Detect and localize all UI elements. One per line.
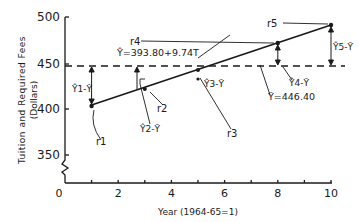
residual-label-r5: r5	[267, 18, 277, 29]
x-tick-10: 10	[324, 187, 338, 200]
x-tick-8: 8	[274, 187, 281, 200]
residual-label-r2: r2	[157, 103, 167, 114]
x-tick-6: 6	[221, 187, 228, 200]
regression-chart: 500 450 400 350 0 2 4 6 8 10 Year (1964-…	[0, 0, 358, 222]
residual-label-r1: r1	[96, 136, 106, 147]
y-tick-500: 500	[37, 10, 60, 24]
y-tick-350: 350	[37, 148, 60, 162]
y-tick-450: 450	[37, 57, 60, 71]
residual-label-r3: r3	[227, 128, 237, 139]
deviation-label-2: Ŷ2-Ȳ	[139, 123, 160, 134]
regression-equation-label: Ŷ=393.80+9.74T	[116, 47, 199, 58]
x-axis	[65, 180, 332, 183]
y-tick-400: 400	[37, 102, 60, 116]
x-tick-2: 2	[115, 187, 122, 200]
deviation-label-3: Ŷ3-Ȳ	[203, 78, 224, 89]
x-axis-label: Year (1964-65=1)	[157, 207, 238, 217]
y-axis-label-line1: Tuition and Required Fees	[17, 36, 27, 165]
deviation-label-5: Ŷ5-Ȳ	[332, 41, 353, 52]
residual-label-r4: r4	[130, 36, 140, 47]
x-tick-4: 4	[168, 187, 175, 200]
mean-label: Ȳ=446.40	[267, 91, 315, 102]
deviation-label-4: Ŷ4-Ȳ	[288, 77, 309, 88]
x-tick-0: 0	[56, 187, 63, 200]
deviation-label-1: Ŷ1-Ȳ	[71, 83, 92, 94]
y-axis-label-line2: (Dollars)	[29, 81, 39, 119]
y-axis	[62, 17, 69, 183]
